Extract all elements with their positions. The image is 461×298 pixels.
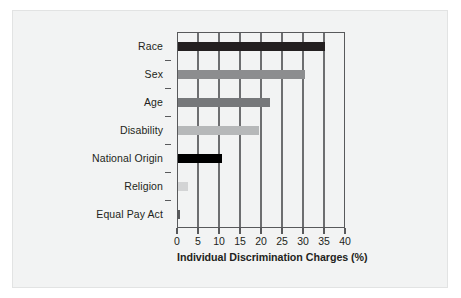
x-axis-tick-label-0: 0: [174, 235, 180, 247]
y-axis-tick: [165, 200, 171, 201]
category-label-sex: Sex: [145, 68, 163, 80]
x-axis-tick-20: [260, 228, 261, 234]
chart-figure-panel: RaceSexAgeDisabilityNational OriginRelig…: [12, 10, 448, 288]
x-axis-tick-40: [344, 228, 345, 234]
plot-frame-border: [177, 32, 345, 228]
x-axis-tick-5: [197, 228, 198, 234]
x-axis-tick-label-40: 40: [339, 235, 351, 247]
x-axis-tick-label-30: 30: [297, 235, 309, 247]
x-axis-tick-25: [281, 228, 282, 234]
x-axis-tick-label-35: 35: [318, 235, 330, 247]
x-axis-tick-35: [323, 228, 324, 234]
x-axis-tick-label-5: 5: [195, 235, 201, 247]
category-label-race: Race: [138, 40, 163, 52]
chart-plot-area: 0510152025303540: [177, 32, 345, 228]
y-axis-tick: [165, 116, 171, 117]
y-axis-tick: [165, 172, 171, 173]
x-axis-tick-10: [218, 228, 219, 234]
y-axis-tick: [165, 88, 171, 89]
x-axis-tick-label-25: 25: [276, 235, 288, 247]
y-axis-category-labels: RaceSexAgeDisabilityNational OriginRelig…: [13, 32, 171, 228]
category-label-equal-pay-act: Equal Pay Act: [96, 208, 163, 220]
category-label-age: Age: [144, 96, 163, 108]
category-label-disability: Disability: [120, 124, 163, 136]
category-label-religion: Religion: [124, 180, 163, 192]
y-axis-tick: [165, 60, 171, 61]
x-axis-tick-0: [176, 228, 177, 234]
x-axis-title: Individual Discrimination Charges (%): [177, 251, 345, 263]
x-axis-tick-15: [239, 228, 240, 234]
x-axis-tick-label-10: 10: [213, 235, 225, 247]
x-axis-tick-label-15: 15: [234, 235, 246, 247]
x-axis-tick-label-20: 20: [255, 235, 267, 247]
y-axis-tick: [165, 144, 171, 145]
x-axis-tick-30: [302, 228, 303, 234]
category-label-national-origin: National Origin: [92, 152, 163, 164]
